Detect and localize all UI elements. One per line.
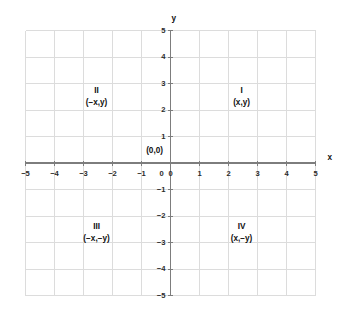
quadrant-3-coord-label: (−x,−y) xyxy=(83,234,109,242)
x-tick-label: 1 xyxy=(197,170,201,178)
quadrant-3-roman-label: III xyxy=(93,222,100,230)
x-tick-label: 0 xyxy=(168,170,172,178)
y-tick-label: −4 xyxy=(157,265,166,273)
y-tick-label: −5 xyxy=(157,292,166,300)
coordinate-plane-figure: y x −5−4−3−2−1012345 −5−4−3−2−1012345 (0… xyxy=(0,0,348,317)
quadrant-1-coord-label: (x,y) xyxy=(233,99,250,107)
x-tick-label: 2 xyxy=(226,170,230,178)
y-tick-label: 2 xyxy=(161,106,165,114)
y-tick-label: 4 xyxy=(161,53,165,61)
quadrant-2-coord-label: (−x,y) xyxy=(86,99,108,107)
x-tick-label: −3 xyxy=(79,170,88,178)
origin-label: (0,0) xyxy=(146,147,163,155)
x-tick-label: −2 xyxy=(108,170,117,178)
y-tick-label: 1 xyxy=(161,133,165,141)
x-tick-label: −5 xyxy=(21,170,30,178)
x-tick-label: −4 xyxy=(50,170,59,178)
y-tick-label: 5 xyxy=(161,27,165,35)
x-tick-label: 3 xyxy=(255,170,259,178)
y-tick-label: 3 xyxy=(161,80,165,88)
quadrant-4-coord-label: (x,−y) xyxy=(231,234,253,242)
y-tick-label: −3 xyxy=(157,239,166,247)
quadrant-1-roman-label: I xyxy=(240,87,242,95)
quadrant-2-roman-label: II xyxy=(94,87,99,95)
coordinate-plane-svg xyxy=(0,0,348,317)
x-tick-label: −1 xyxy=(137,170,146,178)
y-tick-label: −2 xyxy=(157,212,166,220)
y-tick-label: −1 xyxy=(157,186,166,194)
axis-lines xyxy=(26,31,316,296)
y-tick-label: 0 xyxy=(159,170,163,178)
x-tick-label: 5 xyxy=(313,170,317,178)
x-tick-label: 4 xyxy=(284,170,288,178)
x-axis-title: x xyxy=(328,154,333,162)
y-axis-title: y xyxy=(172,15,177,23)
quadrant-4-roman-label: IV xyxy=(238,222,246,230)
